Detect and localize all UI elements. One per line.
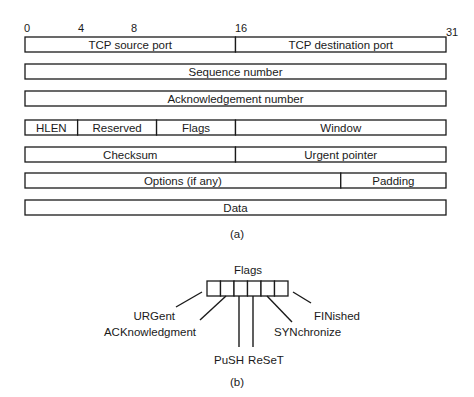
bit-label-4: 4 <box>78 22 84 34</box>
urg-leader-line <box>176 292 202 307</box>
field-acknowledgement-number-label: Acknowledgement number <box>167 93 303 105</box>
field-options-if-any-label: Options (if any) <box>144 175 222 187</box>
field-tcp-source-port-label: TCP source port <box>88 39 172 51</box>
field-hlen-label: HLEN <box>36 122 67 134</box>
flag-label-fin: FINished <box>314 310 360 322</box>
flag-cell-ack <box>221 281 235 296</box>
flag-cell-rst <box>248 281 262 296</box>
field-checksum-label: Checksum <box>103 149 157 161</box>
flag-label-syn: SYNchronize <box>274 326 341 338</box>
fin-leader-line <box>293 292 311 303</box>
caption-b: (b) <box>230 376 244 388</box>
header-row: ChecksumUrgent pointer <box>25 147 446 162</box>
field-data-label: Data <box>223 202 248 214</box>
bit-label-8: 8 <box>131 22 137 34</box>
header-row: HLENReservedFlagsWindow <box>25 120 446 135</box>
header-row: Acknowledgement number <box>25 91 446 106</box>
flag-cell-urg <box>207 281 221 296</box>
header-row: TCP source portTCP destination port <box>25 37 446 52</box>
field-sequence-number-label: Sequence number <box>189 66 283 78</box>
bit-label-0: 0 <box>24 22 30 34</box>
flag-label-urg: URGent <box>133 310 175 322</box>
field-window-label: Window <box>320 122 362 134</box>
bit-position-labels: 0 4 8 16 31 <box>24 22 458 38</box>
ack-leader-line <box>200 296 226 320</box>
flag-label-ack: ACKnowledgment <box>104 326 197 338</box>
field-padding-label: Padding <box>372 175 414 187</box>
bit-label-31: 31 <box>446 26 458 38</box>
syn-leader-line <box>267 296 292 322</box>
header-rows: TCP source portTCP destination portSeque… <box>25 37 446 215</box>
flags-figure: Flags URGent ACKnowledgment PuSH ReSeT S… <box>104 264 360 388</box>
flags-title: Flags <box>234 264 262 276</box>
field-flags-label: Flags <box>182 122 210 134</box>
caption-a: (a) <box>230 228 244 240</box>
flag-cell-fin <box>275 281 289 296</box>
flag-cell-syn <box>261 281 275 296</box>
flag-cell-psh <box>234 281 248 296</box>
flag-label-rst: ReSeT <box>248 354 284 366</box>
field-tcp-destination-port-label: TCP destination port <box>288 39 393 51</box>
bit-label-16: 16 <box>235 22 247 34</box>
flags-bit-box <box>207 281 288 296</box>
header-row: Options (if any)Padding <box>25 173 446 188</box>
field-urgent-pointer-label: Urgent pointer <box>304 149 377 161</box>
field-reserved-label: Reserved <box>92 122 141 134</box>
tcp-header-diagram: 0 4 8 16 31 TCP source portTCP destinati… <box>0 0 474 397</box>
header-row: Sequence number <box>25 64 446 79</box>
flag-label-psh: PuSH <box>214 354 244 366</box>
header-row: Data <box>25 200 446 215</box>
